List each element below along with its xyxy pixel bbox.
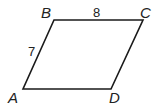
- parallelogram-ABCD: [23, 20, 143, 89]
- vertex-label-C: C: [140, 4, 151, 21]
- side-label-BC: 8: [93, 5, 100, 20]
- vertex-label-B: B: [41, 4, 51, 21]
- vertex-label-A: A: [7, 89, 18, 106]
- vertex-label-D: D: [109, 89, 120, 106]
- side-label-AB: 7: [28, 44, 35, 59]
- parallelogram-diagram: B C A D 8 7: [0, 0, 153, 107]
